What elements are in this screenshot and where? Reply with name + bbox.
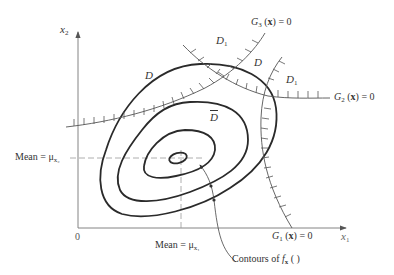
g1-label: G1 (x) = 0 bbox=[272, 231, 313, 243]
leader-dot-1 bbox=[209, 184, 212, 187]
contours bbox=[100, 64, 276, 216]
contours-annotation: Contours of fx ( ) bbox=[232, 254, 300, 266]
mean-x1-label: Mean = μx₁ bbox=[155, 240, 200, 252]
x-axis-label: x1 bbox=[341, 231, 349, 244]
g3-hatches bbox=[74, 40, 258, 126]
contour-2 bbox=[118, 102, 248, 201]
origin-label: 0 bbox=[75, 232, 80, 242]
g2-label: G2 (x) = 0 bbox=[334, 92, 375, 104]
mean-x2-label: Mean = μx₂ bbox=[15, 152, 60, 164]
y-axis-label: x2 bbox=[60, 24, 68, 37]
g3-label: G3 (x) = 0 bbox=[251, 17, 292, 29]
leader-dot-2 bbox=[212, 198, 215, 201]
region-d-top: D bbox=[254, 57, 262, 68]
region-d-left: D bbox=[145, 70, 153, 81]
region-d1-right: D1 bbox=[286, 74, 297, 87]
diagram-canvas bbox=[0, 0, 394, 275]
region-d1-top: D1 bbox=[216, 35, 227, 48]
region-d-bar: D bbox=[210, 112, 218, 123]
